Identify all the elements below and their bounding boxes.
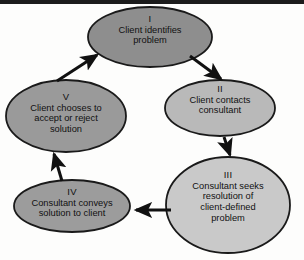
arrow-5-to-1 (57, 55, 97, 81)
arrow-2-to-3 (224, 137, 230, 155)
node-ellipse-4[interactable] (14, 180, 130, 232)
node-ellipse-3[interactable] (166, 157, 290, 253)
arrow-4-to-5 (54, 154, 62, 181)
arrow-1-to-2 (190, 56, 221, 79)
diagram-canvas: I Client identifies problem II Client co… (0, 0, 304, 260)
node-ellipse-5[interactable] (6, 80, 126, 152)
cycle-diagram (0, 0, 304, 260)
node-ellipse-2[interactable] (165, 80, 275, 136)
